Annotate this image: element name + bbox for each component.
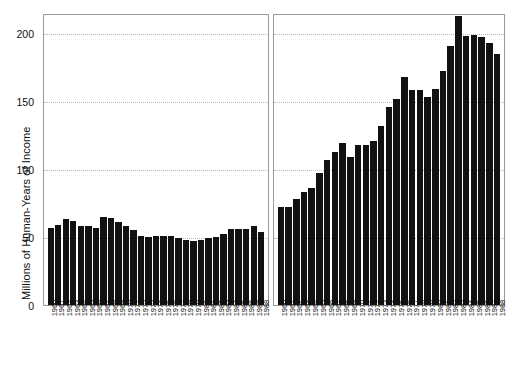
x-tick-label: 1979 — [425, 308, 432, 378]
bar — [100, 217, 106, 305]
bar — [153, 236, 159, 305]
bar — [168, 236, 174, 305]
bar — [363, 145, 370, 305]
x-tick-label: 1969 — [347, 308, 354, 378]
bar — [115, 222, 121, 305]
x-tick-label: 1986 — [244, 308, 250, 378]
bar — [85, 226, 91, 305]
bar — [63, 219, 69, 305]
bar — [285, 207, 292, 305]
x-tick-label: 1985 — [472, 308, 479, 378]
x-tick-label: 1962 — [292, 308, 299, 378]
bar — [293, 199, 300, 305]
x-tick-label: 1975 — [161, 308, 167, 378]
bar — [48, 228, 54, 305]
x-tick-label: 1984 — [229, 308, 235, 378]
x-tick-label: 1984 — [464, 308, 471, 378]
bar — [138, 236, 144, 305]
bar — [278, 207, 285, 305]
x-tick-label: 1988 — [259, 308, 265, 378]
x-tick-label: 1982 — [448, 308, 455, 378]
bar — [424, 97, 431, 305]
x-tick-label: 1973 — [145, 308, 151, 378]
bar — [486, 43, 493, 305]
x-tick-label: 1987 — [252, 308, 258, 378]
bar — [447, 46, 454, 305]
x-tick-text: 1988 — [498, 300, 507, 317]
x-tick-label: 1967 — [331, 308, 338, 378]
x-tick-label: 1981 — [440, 308, 447, 378]
bar — [393, 99, 400, 305]
x-tick-label: 1961 — [284, 308, 291, 378]
bar — [409, 90, 416, 305]
bar — [440, 71, 447, 305]
x-tick-label: 1985 — [236, 308, 242, 378]
x-tick-label: 1960 — [47, 308, 53, 378]
bar — [108, 218, 114, 305]
x-axis-tick-labels-left: 1960196119621963196419651966196719681969… — [43, 308, 269, 378]
x-axis-tick-labels-right: 1960196119621963196419651966196719681969… — [273, 308, 505, 378]
x-tick-label: 1963 — [69, 308, 75, 378]
x-tick-label: 1968 — [107, 308, 113, 378]
x-tick-label: 1969 — [115, 308, 121, 378]
bar — [401, 77, 408, 305]
bar — [417, 90, 424, 305]
x-tick-label: 1965 — [316, 308, 323, 378]
plot-area-right — [274, 15, 504, 305]
y-tick-50: 50 — [4, 233, 34, 244]
x-tick-label: 1973 — [378, 308, 385, 378]
x-tick-label: 1977 — [409, 308, 416, 378]
bar — [308, 188, 315, 305]
x-tick-label: 1962 — [62, 308, 68, 378]
x-tick-label: 1983 — [221, 308, 227, 378]
bar — [235, 229, 241, 305]
bar — [190, 241, 196, 305]
x-tick-label: 1976 — [168, 308, 174, 378]
bar — [213, 237, 219, 305]
bar — [243, 229, 249, 305]
x-tick-label: 1978 — [417, 308, 424, 378]
bar — [355, 145, 362, 305]
x-tick-label: 1972 — [138, 308, 144, 378]
bar — [471, 35, 478, 305]
bar — [332, 152, 339, 305]
bar — [324, 160, 331, 305]
x-tick-label: 1975 — [394, 308, 401, 378]
x-tick-label: 1963 — [300, 308, 307, 378]
y-tick-150: 150 — [4, 97, 34, 108]
x-tick-label: 1978 — [183, 308, 189, 378]
x-tick-label: 1983 — [456, 308, 463, 378]
bar — [386, 107, 393, 305]
y-tick-200: 200 — [4, 29, 34, 40]
bar — [160, 236, 166, 305]
x-tick-label: 1988 — [495, 308, 502, 378]
bar — [494, 54, 501, 305]
bar — [183, 240, 189, 305]
bar — [478, 37, 485, 305]
x-tick-label: 1964 — [308, 308, 315, 378]
bar — [258, 232, 264, 305]
x-tick-label: 1972 — [370, 308, 377, 378]
x-tick-label: 1971 — [130, 308, 136, 378]
x-tick-label: 1970 — [123, 308, 129, 378]
chart-panel-right — [273, 14, 505, 306]
x-tick-text: 1988 — [262, 300, 271, 317]
bar — [301, 192, 308, 305]
x-tick-label: 1974 — [386, 308, 393, 378]
bar — [78, 226, 84, 305]
x-tick-label: 1987 — [487, 308, 494, 378]
x-tick-label: 1966 — [323, 308, 330, 378]
bar — [55, 225, 61, 305]
x-tick-label: 1986 — [479, 308, 486, 378]
x-tick-label: 1979 — [191, 308, 197, 378]
x-tick-label: 1980 — [198, 308, 204, 378]
x-tick-label: 1981 — [206, 308, 212, 378]
bar — [370, 141, 377, 305]
y-axis-tick-labels: 050100150200 — [4, 0, 34, 383]
x-tick-label: 1964 — [77, 308, 83, 378]
x-tick-label: 1961 — [54, 308, 60, 378]
bar — [339, 143, 346, 305]
bar — [251, 226, 257, 305]
bar — [463, 36, 470, 305]
x-tick-label: 1965 — [85, 308, 91, 378]
